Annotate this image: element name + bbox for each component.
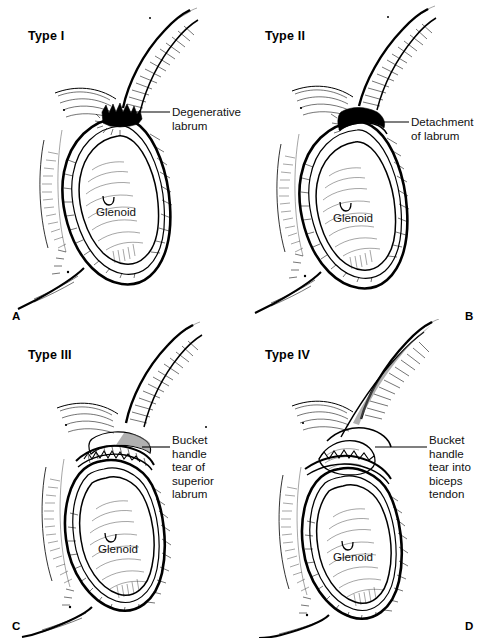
- panel-letter-c: C: [12, 620, 20, 632]
- type-label-iv: Type IV: [265, 348, 310, 362]
- callout-type-iv: Bucket handle tear into biceps tendon: [429, 433, 482, 501]
- panel-type-i: Type I Degenerative labrum Glenoid A: [0, 0, 241, 319]
- glenoid-label-d: Glenoid: [333, 550, 373, 564]
- callout-type-iii: Bucket handle tear of superior labrum: [172, 433, 241, 501]
- panel-type-iv: Type IV Bucket handle tear into biceps t…: [241, 319, 482, 638]
- illustration-type-ii: [241, 0, 482, 319]
- type-label-ii: Type II: [265, 29, 305, 43]
- callout-type-ii: Detachment of labrum: [411, 115, 474, 142]
- glenoid-label-b: Glenoid: [333, 211, 373, 225]
- panel-type-iii: Type III Bucket handle tear of superior …: [0, 319, 241, 638]
- glenoid-label-a: Glenoid: [96, 205, 136, 219]
- type-label-iii: Type III: [28, 348, 72, 362]
- glenoid-label-c: Glenoid: [98, 542, 138, 556]
- panel-letter-d: D: [465, 620, 473, 632]
- callout-type-i: Degenerative labrum: [172, 105, 241, 132]
- panel-type-ii: Type II Detachment of labrum Glenoid B: [241, 0, 482, 319]
- type-label-i: Type I: [28, 29, 64, 43]
- illustration-type-i: [0, 0, 241, 319]
